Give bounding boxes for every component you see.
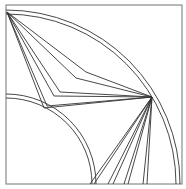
fan-lines xyxy=(7,12,152,184)
upper-fan-line-2 xyxy=(7,12,152,97)
upper-fan-line-0 xyxy=(7,12,152,97)
lower-fan-line-1 xyxy=(94,97,152,184)
lower-fan-line-3 xyxy=(113,97,152,184)
upper-fan-line-3 xyxy=(7,12,152,97)
guide xyxy=(7,12,152,97)
lower-fan-line-5 xyxy=(128,97,152,184)
lower-fan-line-0 xyxy=(90,97,152,184)
line-art-figure xyxy=(0,0,186,189)
upper-fan-line-1 xyxy=(7,12,152,97)
inner-arc-1 xyxy=(6,98,92,184)
lower-fan-line-2 xyxy=(108,97,152,184)
